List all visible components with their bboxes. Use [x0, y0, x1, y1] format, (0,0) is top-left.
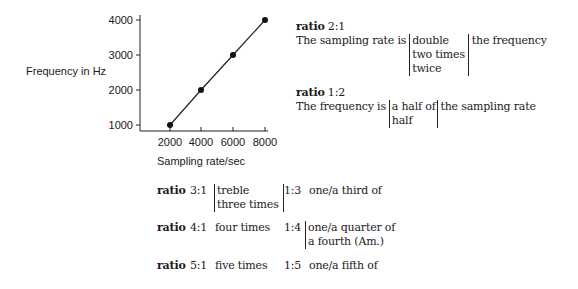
- ratio-1-2-heading: ratio 1:2: [296, 86, 345, 100]
- ratio-label: ratio: [157, 259, 186, 273]
- option: four times: [215, 221, 270, 235]
- sentence-prefix: The frequency is: [296, 100, 386, 114]
- y-tick: 4000: [109, 14, 133, 26]
- options-group: a half of half: [389, 100, 438, 128]
- x-tick: 2000: [158, 136, 182, 148]
- option: double: [412, 34, 465, 48]
- data-line: [170, 20, 265, 125]
- inverse-option: one/a third of: [309, 184, 382, 198]
- inverse-option: one/a fifth of: [309, 259, 378, 273]
- sentence-suffix: the sampling rate: [441, 100, 536, 114]
- option: twice: [412, 62, 465, 76]
- data-point: [198, 87, 204, 93]
- data-point: [230, 52, 236, 58]
- ratio-value: 2:1: [328, 20, 345, 33]
- ratio-label: ratio: [296, 86, 325, 99]
- option: three times: [217, 198, 280, 212]
- options-group: treble three times: [214, 184, 284, 212]
- chart-plot: 4000 3000 2000 1000 2000 4000 6000 8000 …: [0, 0, 290, 150]
- x-axis-label: Sampling rate/sec: [157, 155, 245, 167]
- x-tick: 4000: [189, 136, 213, 148]
- data-point: [167, 122, 173, 128]
- x-tick: 8000: [253, 136, 277, 148]
- ratio-label: ratio: [157, 184, 186, 198]
- ratio-value: 4:1: [190, 221, 207, 235]
- ratio-value: 1:2: [328, 86, 345, 99]
- option: treble: [217, 184, 280, 198]
- ratio-label: ratio: [157, 221, 186, 235]
- ratio-label: ratio: [296, 20, 325, 33]
- inverse-option: a fourth (Am.): [308, 235, 395, 249]
- inverse-option: one/a quarter of: [308, 221, 395, 235]
- option: five times: [215, 259, 267, 273]
- x-tick: 6000: [221, 136, 245, 148]
- options-group: double two times twice: [409, 34, 469, 76]
- inverse-ratio: 1:3: [284, 184, 301, 198]
- frequency-chart: 4000 3000 2000 1000 2000 4000 6000 8000 …: [0, 0, 290, 150]
- y-tick: 3000: [109, 49, 133, 61]
- option: half: [392, 114, 436, 128]
- ratio-1-2-sentence: The frequency is a half of half the samp…: [296, 100, 536, 128]
- sentence-prefix: The sampling rate is: [296, 34, 406, 48]
- option: two times: [412, 48, 465, 62]
- sentence-suffix: the frequency: [472, 34, 547, 48]
- option: a half of: [392, 100, 436, 114]
- inverse-ratio: 1:5: [284, 259, 301, 273]
- inverse-ratio: 1:4: [284, 221, 301, 235]
- ratio-value: 5:1: [190, 259, 207, 273]
- y-tick: 1000: [109, 119, 133, 131]
- y-tick: 2000: [109, 84, 133, 96]
- ratio-2-1-heading: ratio 2:1: [296, 20, 345, 34]
- ratio-2-1-sentence: The sampling rate is double two times tw…: [296, 34, 547, 76]
- y-axis-label: Frequency in Hz: [26, 65, 106, 77]
- data-point: [262, 17, 268, 23]
- inverse-options-group: one/a quarter of a fourth (Am.): [305, 221, 395, 249]
- ratio-value: 3:1: [190, 184, 207, 198]
